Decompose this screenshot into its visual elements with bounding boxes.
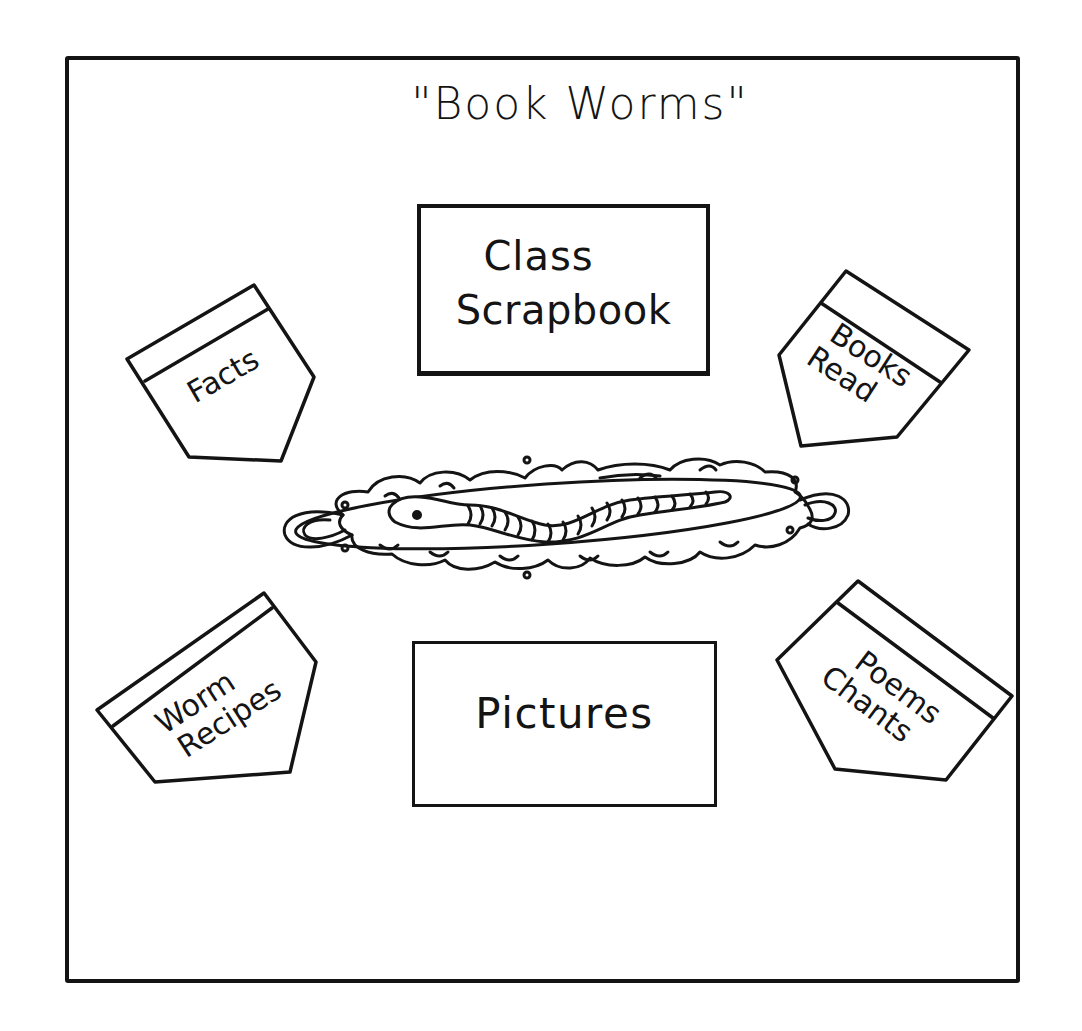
board-drawings [0,0,1082,1031]
bulletin-board: "Book Worms" Class Scrapbook Pictures [0,0,1082,1031]
worm-platter-icon [284,457,848,578]
